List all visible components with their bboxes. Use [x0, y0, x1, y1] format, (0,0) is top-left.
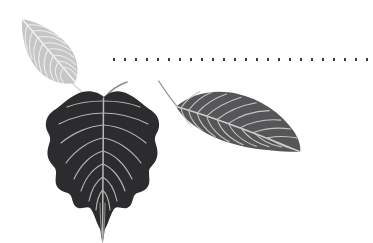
dotted-rule — [113, 58, 368, 61]
rule-dot — [278, 58, 280, 61]
rule-dot — [113, 58, 115, 61]
rule-dot — [366, 58, 368, 61]
rule-dot — [201, 58, 203, 61]
rule-dot — [245, 58, 247, 61]
illustration-canvas — [0, 0, 373, 243]
rule-dot — [157, 58, 159, 61]
rule-dot — [223, 58, 225, 61]
rule-dot — [179, 58, 181, 61]
rule-dot — [124, 58, 126, 61]
leaf-illustration — [0, 0, 373, 243]
rule-dot — [135, 58, 137, 61]
rule-dot — [267, 58, 269, 61]
rule-dot — [322, 58, 324, 61]
rule-dot — [355, 58, 357, 61]
rule-dot — [300, 58, 302, 61]
rule-dot — [311, 58, 313, 61]
rule-dot — [256, 58, 258, 61]
leaf-midrib — [103, 98, 104, 241]
rule-dot — [289, 58, 291, 61]
rule-dot — [146, 58, 148, 61]
rule-dot — [190, 58, 192, 61]
leaf-stem-icon — [153, 81, 182, 106]
leaf-dark-center — [46, 82, 159, 243]
rule-dot — [234, 58, 236, 61]
leaf-blade — [171, 75, 312, 167]
leaf-mid-right — [147, 66, 312, 167]
rule-dot — [344, 58, 346, 61]
rule-dot — [333, 58, 335, 61]
rule-dot — [168, 58, 170, 61]
rule-dot — [212, 58, 214, 61]
leaf-blade — [7, 7, 89, 96]
